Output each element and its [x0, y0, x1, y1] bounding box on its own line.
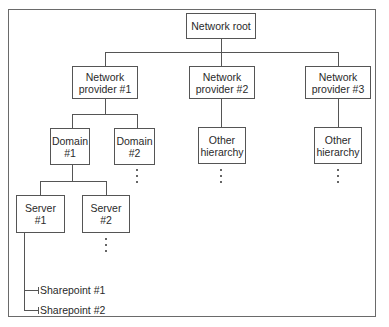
node-domain-1: Domain #1	[50, 128, 90, 165]
connector	[106, 181, 107, 195]
connector	[137, 114, 138, 128]
node-network-root: Network root	[186, 13, 256, 39]
continuation-dot	[136, 181, 138, 183]
continuation-dot	[105, 244, 107, 246]
continuation-dot	[136, 175, 138, 177]
continuation-dot	[105, 238, 107, 240]
continuation-dot	[105, 250, 107, 252]
connector	[72, 114, 138, 115]
connector-tick	[38, 307, 39, 314]
node-server-1: Server #1	[16, 195, 65, 233]
continuation-dot	[337, 181, 339, 183]
node-other-hierarchy-2: Other hierarchy	[198, 127, 246, 164]
connector	[105, 52, 106, 66]
connector	[105, 99, 106, 114]
continuation-dot	[220, 175, 222, 177]
continuation-dot	[220, 169, 222, 171]
node-server-2: Server #2	[82, 195, 130, 233]
leaf-sharepoint-2: Sharepoint #2	[40, 304, 105, 316]
node-domain-2: Domain #2	[114, 128, 155, 165]
continuation-dot	[136, 169, 138, 171]
leaf-sharepoint-1: Sharepoint #1	[40, 284, 105, 296]
continuation-dot	[337, 175, 339, 177]
connector	[221, 99, 222, 127]
continuation-dot	[220, 181, 222, 183]
node-network-provider-1: Network provider #1	[72, 66, 138, 99]
connector	[24, 233, 25, 311]
connector	[40, 181, 107, 182]
node-other-hierarchy-3: Other hierarchy	[314, 127, 362, 164]
connector	[338, 99, 339, 127]
node-network-provider-2: Network provider #2	[189, 66, 255, 99]
connector	[105, 52, 339, 53]
connector-tick	[38, 287, 39, 294]
connector	[72, 114, 73, 128]
connector	[338, 52, 339, 66]
connector	[24, 310, 38, 311]
continuation-dot	[337, 169, 339, 171]
node-network-provider-3: Network provider #3	[305, 66, 371, 99]
connector	[72, 165, 73, 181]
connector	[40, 181, 41, 195]
connector	[24, 290, 38, 291]
